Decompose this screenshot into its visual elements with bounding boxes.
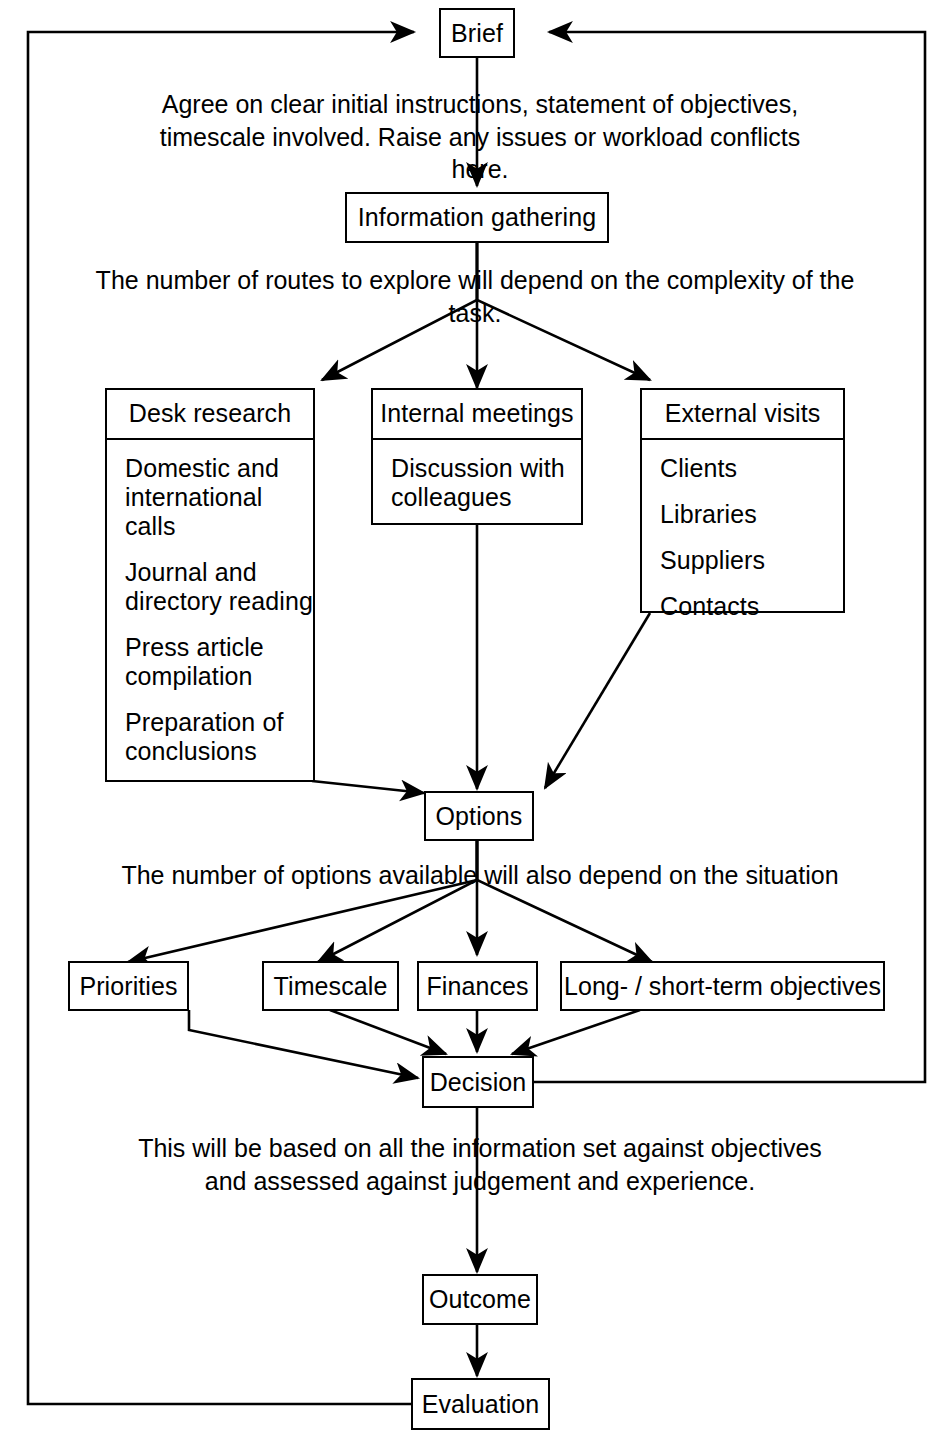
group-internal-meetings-items: Discussion with colleagues bbox=[373, 440, 581, 526]
caption-routes-note-text: The number of routes to explore will dep… bbox=[70, 264, 880, 329]
list-item: Journal and directory reading bbox=[125, 558, 313, 616]
edge-priorities-to-decision bbox=[189, 1010, 418, 1078]
group-internal-meetings[interactable]: Internal meetings Discussion with collea… bbox=[371, 388, 583, 525]
caption-options-note-text: The number of options available will als… bbox=[85, 859, 875, 892]
list-item: Discussion with colleagues bbox=[391, 454, 581, 512]
node-information-gathering-label: Information gathering bbox=[358, 203, 596, 232]
group-external-visits[interactable]: External visits Clients Libraries Suppli… bbox=[640, 388, 845, 613]
caption-options-note: The number of options available will als… bbox=[85, 859, 875, 892]
box-long-short-term-objectives-label: Long- / short-term objectives bbox=[564, 972, 881, 1001]
node-decision-label: Decision bbox=[430, 1068, 527, 1097]
box-finances[interactable]: Finances bbox=[417, 961, 538, 1011]
caption-brief-note-line2: timescale involved. Raise any issues or … bbox=[140, 121, 820, 186]
list-item: Suppliers bbox=[660, 546, 843, 575]
group-external-visits-items: Clients Libraries Suppliers Contacts bbox=[642, 440, 843, 635]
group-desk-research-header: Desk research bbox=[107, 390, 313, 440]
node-options-label: Options bbox=[436, 802, 523, 831]
list-item: Preparation of conclusions bbox=[125, 708, 313, 766]
list-item: Clients bbox=[660, 454, 843, 483]
node-brief-label: Brief bbox=[451, 19, 503, 48]
caption-routes-note: The number of routes to explore will dep… bbox=[70, 264, 880, 329]
node-options[interactable]: Options bbox=[424, 791, 534, 841]
caption-decision-note-line1: This will be based on all the informatio… bbox=[125, 1132, 835, 1165]
box-priorities[interactable]: Priorities bbox=[68, 961, 189, 1011]
box-timescale-label: Timescale bbox=[274, 972, 388, 1001]
edge-objectives-to-decision bbox=[512, 1010, 640, 1054]
caption-decision-note-line2: and assessed against judgement and exper… bbox=[125, 1165, 835, 1198]
node-outcome[interactable]: Outcome bbox=[422, 1274, 538, 1325]
group-desk-research[interactable]: Desk research Domestic and international… bbox=[105, 388, 315, 782]
node-outcome-label: Outcome bbox=[429, 1285, 531, 1314]
box-long-short-term-objectives[interactable]: Long- / short-term objectives bbox=[560, 961, 885, 1011]
list-item: Press article compilation bbox=[125, 633, 313, 691]
edge-timescale-to-decision bbox=[330, 1010, 446, 1054]
node-information-gathering[interactable]: Information gathering bbox=[345, 192, 609, 243]
node-decision[interactable]: Decision bbox=[422, 1056, 534, 1108]
box-priorities-label: Priorities bbox=[79, 972, 177, 1001]
caption-brief-note: Agree on clear initial instructions, sta… bbox=[140, 88, 820, 186]
box-timescale[interactable]: Timescale bbox=[262, 961, 399, 1011]
caption-brief-note-line1: Agree on clear initial instructions, sta… bbox=[140, 88, 820, 121]
group-internal-meetings-header: Internal meetings bbox=[373, 390, 581, 440]
caption-decision-note: This will be based on all the informatio… bbox=[125, 1132, 835, 1197]
node-evaluation[interactable]: Evaluation bbox=[411, 1378, 550, 1430]
group-external-visits-header: External visits bbox=[642, 390, 843, 440]
node-evaluation-label: Evaluation bbox=[422, 1390, 540, 1419]
list-item: Domestic and international calls bbox=[125, 454, 313, 541]
group-desk-research-items: Domestic and international calls Journal… bbox=[107, 440, 313, 780]
edge-desk-research-to-options bbox=[312, 781, 424, 793]
edge-external-visits-to-options bbox=[545, 613, 650, 788]
node-brief[interactable]: Brief bbox=[439, 8, 515, 58]
box-finances-label: Finances bbox=[426, 972, 528, 1001]
list-item: Contacts bbox=[660, 592, 843, 621]
flowchart-canvas: Brief Agree on clear initial instruction… bbox=[0, 0, 951, 1439]
list-item: Libraries bbox=[660, 500, 843, 529]
